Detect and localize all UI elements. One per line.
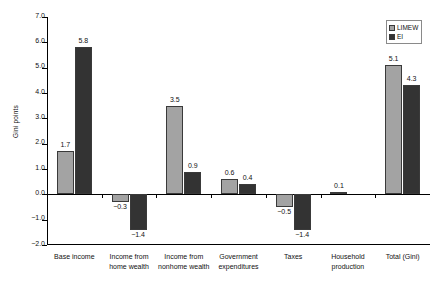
bar-ei (239, 184, 256, 194)
bar-ei (403, 85, 420, 194)
bar-limew (166, 106, 183, 195)
legend-label-limew: LIMEW (397, 24, 418, 31)
legend: LIMEW EI (386, 20, 422, 44)
bar-limew (57, 151, 74, 194)
x-axis-label-line: production (321, 262, 376, 272)
bar-value-label: 1.7 (50, 141, 81, 148)
x-axis-category-label: Income fromnonhome wealth (156, 252, 211, 271)
plot-area: 7.06.05.04.03.02.01.00.0−1.0−2.0 1.75.8−… (47, 17, 430, 245)
bar-value-label: 5.1 (378, 55, 409, 62)
legend-item-ei: EI (389, 32, 418, 41)
y-axis-line (47, 17, 48, 245)
x-axis-tick-mark (211, 194, 212, 198)
x-axis-tick-mark (375, 194, 376, 198)
bar-limew (385, 65, 402, 194)
y-axis-tick-label: 0.0 (35, 189, 45, 196)
x-axis-label-line: Income from (102, 252, 157, 262)
x-axis-label-line: home wealth (102, 262, 157, 272)
x-axis-category-label: Total (Gini) (375, 252, 430, 262)
x-axis-label-line: Government (211, 252, 266, 262)
bar-limew (330, 192, 347, 195)
bar-value-label: −1.4 (123, 231, 154, 238)
legend-label-ei: EI (397, 33, 403, 40)
x-axis-category-label: Governmentexpenditures (211, 252, 266, 271)
x-axis-label-line: Income from (156, 252, 211, 262)
bar-value-label: 3.5 (159, 96, 190, 103)
bar-ei (184, 172, 201, 195)
y-axis-tick-label: 7.0 (35, 12, 45, 19)
y-axis-tick-label: 5.0 (35, 62, 45, 69)
x-axis-label-line: nonhome wealth (156, 262, 211, 272)
bar-value-label: 0.1 (323, 182, 354, 189)
y-axis-tick-label: −1.0 (31, 214, 45, 221)
legend-swatch-ei-icon (389, 34, 395, 40)
bar-value-label: 0.9 (177, 162, 208, 169)
x-axis-tick-mark (266, 194, 267, 198)
bar-ei (75, 47, 92, 194)
bar-value-label: 4.3 (396, 75, 427, 82)
bar-ei (130, 194, 147, 229)
bar-limew (221, 179, 238, 194)
legend-swatch-limew-icon (389, 25, 395, 31)
y-axis-title: Gini points (12, 87, 19, 157)
x-axis-tick-mark (102, 194, 103, 198)
x-axis-category-label: Taxes (266, 252, 321, 262)
x-axis-label-line: Taxes (266, 252, 321, 262)
x-axis-frame-line (47, 244, 430, 245)
bar-value-label: −0.5 (269, 208, 300, 215)
bar-value-label: 0.4 (232, 174, 263, 181)
x-axis-label-line: Base income (47, 252, 102, 262)
bar-value-label: −0.3 (105, 203, 136, 210)
zero-baseline (47, 194, 430, 195)
x-axis-label-line: Household (321, 252, 376, 262)
x-axis-tick-mark (156, 194, 157, 198)
y-axis-tick-label: 6.0 (35, 37, 45, 44)
bar-limew (276, 194, 293, 207)
bar-value-label: 5.8 (68, 37, 99, 44)
x-axis-category-label: Householdproduction (321, 252, 376, 271)
x-axis-label-line: Total (Gini) (375, 252, 430, 262)
y-axis-tick-label: 2.0 (35, 138, 45, 145)
x-axis-category-label: Base income (47, 252, 102, 262)
y-axis-tick-label: 3.0 (35, 113, 45, 120)
gini-decomposition-bar-chart: Gini points 7.06.05.04.03.02.01.00.0−1.0… (0, 0, 443, 284)
bar-limew (112, 194, 129, 202)
x-axis-tick-mark (321, 194, 322, 198)
x-axis-category-label: Income fromhome wealth (102, 252, 157, 271)
bar-value-label: −1.4 (287, 231, 318, 238)
y-axis-tick-label: −2.0 (31, 240, 45, 247)
legend-item-limew: LIMEW (389, 23, 418, 32)
y-axis-tick-label: 4.0 (35, 88, 45, 95)
x-axis-label-line: expenditures (211, 262, 266, 272)
y-axis-tick-label: 1.0 (35, 164, 45, 171)
